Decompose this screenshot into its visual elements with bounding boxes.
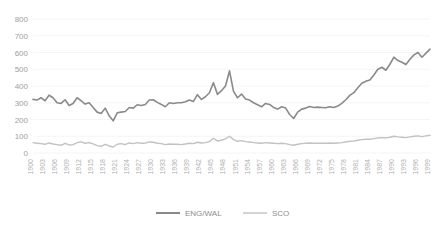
x-tick-label: 1981 bbox=[352, 159, 359, 175]
y-tick-label: 600 bbox=[15, 49, 29, 58]
y-tick-label: 200 bbox=[15, 116, 29, 125]
gridlines bbox=[33, 19, 430, 153]
y-tick-label: 800 bbox=[15, 15, 29, 24]
x-tick-label: 1957 bbox=[256, 159, 263, 175]
x-tick-label: 1960 bbox=[268, 159, 275, 175]
x-tick-label: 1912 bbox=[75, 159, 82, 175]
y-tick-label: 400 bbox=[15, 82, 29, 91]
x-tick-label: 1987 bbox=[376, 159, 383, 175]
series-line-eng-wal bbox=[33, 49, 430, 121]
x-tick-label: 1954 bbox=[244, 159, 251, 175]
x-tick-label: 1969 bbox=[304, 159, 311, 175]
x-tick-label: 1984 bbox=[364, 159, 371, 175]
x-axis-tick-labels: 1900190319061909191219151918192119241927… bbox=[27, 159, 431, 175]
x-tick-label: 1975 bbox=[328, 159, 335, 175]
chart-legend: ENG/WALSCO bbox=[156, 209, 289, 218]
series-line-sco bbox=[33, 135, 430, 147]
x-tick-label: 1900 bbox=[27, 159, 34, 175]
x-tick-label: 1978 bbox=[340, 159, 347, 175]
y-tick-label: 500 bbox=[15, 65, 29, 74]
y-tick-label: 700 bbox=[15, 32, 29, 41]
x-tick-label: 1963 bbox=[280, 159, 287, 175]
series-lines bbox=[33, 49, 430, 147]
legend-label: SCO bbox=[272, 209, 289, 218]
y-axis-tick-labels: 8007006005004003002001000 bbox=[15, 15, 29, 158]
x-tick-label: 1918 bbox=[99, 159, 106, 175]
y-tick-label: 0 bbox=[24, 149, 29, 158]
x-tick-label: 1951 bbox=[232, 159, 239, 175]
x-tick-label: 1909 bbox=[63, 159, 70, 175]
x-tick-label: 1906 bbox=[51, 159, 58, 175]
x-tick-label: 1990 bbox=[388, 159, 395, 175]
chart-canvas: 8007006005004003002001000 19001903190619… bbox=[0, 0, 436, 228]
line-chart: 8007006005004003002001000 19001903190619… bbox=[0, 0, 436, 228]
x-tick-label: 1924 bbox=[123, 159, 130, 175]
x-tick-label: 1972 bbox=[316, 159, 323, 175]
y-tick-label: 100 bbox=[15, 132, 29, 141]
x-tick-label: 1945 bbox=[207, 159, 214, 175]
y-tick-label: 300 bbox=[15, 99, 29, 108]
x-tick-label: 1966 bbox=[292, 159, 299, 175]
x-tick-label: 1993 bbox=[400, 159, 407, 175]
x-tick-label: 1996 bbox=[412, 159, 419, 175]
x-tick-label: 1999 bbox=[424, 159, 431, 175]
x-tick-label: 1903 bbox=[39, 159, 46, 175]
x-tick-label: 1948 bbox=[219, 159, 226, 175]
legend-label: ENG/WAL bbox=[185, 209, 222, 218]
x-tick-label: 1915 bbox=[87, 159, 94, 175]
x-tick-label: 1927 bbox=[135, 159, 142, 175]
x-tick-label: 1942 bbox=[195, 159, 202, 175]
x-tick-label: 1939 bbox=[183, 159, 190, 175]
x-tick-label: 1921 bbox=[111, 159, 118, 175]
x-tick-label: 1930 bbox=[147, 159, 154, 175]
x-tick-label: 1936 bbox=[171, 159, 178, 175]
x-tick-label: 1933 bbox=[159, 159, 166, 175]
